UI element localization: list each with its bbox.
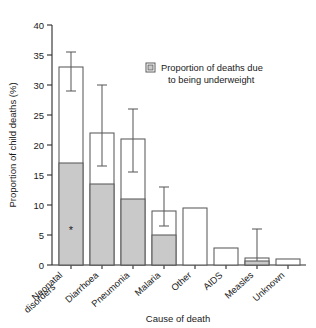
- x-axis-title: Cause of death: [146, 313, 210, 324]
- y-tick-label-25: 25: [33, 110, 44, 121]
- y-axis-tick-labels: 0 5 10 15 20 25 30 35 40: [33, 20, 44, 271]
- legend-label-line2: to being underweight: [168, 75, 255, 85]
- y-tick-label-15: 15: [33, 170, 44, 181]
- y-tick-label-35: 35: [33, 50, 44, 61]
- legend: Proportion of deaths due to being underw…: [146, 63, 263, 85]
- chart-container: 0 5 10 15 20 25 30 35 40 Proportion of c…: [0, 0, 316, 328]
- bar-group-measles[interactable]: [245, 229, 269, 265]
- asterisk-annotation-icon: *: [69, 224, 74, 236]
- category-label-aids: AIDS: [202, 270, 225, 292]
- y-tick-label-40: 40: [33, 20, 44, 31]
- y-tick-label-30: 30: [33, 80, 44, 91]
- y-axis-ticks: [47, 25, 52, 265]
- bar-underweight-pneumonia[interactable]: [121, 199, 145, 265]
- bar-underweight-diarrhoea[interactable]: [90, 184, 114, 265]
- bar-group-other[interactable]: [183, 208, 207, 265]
- y-tick-label-5: 5: [39, 230, 44, 241]
- bar-underweight-malaria[interactable]: [152, 235, 176, 265]
- y-tick-label-10: 10: [33, 200, 44, 211]
- bar-underweight-measles[interactable]: [245, 261, 269, 265]
- bar-group-unknown[interactable]: [276, 259, 300, 265]
- legend-label-line1: Proportion of deaths due: [161, 63, 263, 73]
- y-axis-title: Proportion of child deaths (%): [7, 82, 18, 207]
- y-tick-label-20: 20: [33, 140, 44, 151]
- x-axis-category-labels: Neonatal disorders Diarrhoea Pneumonia M…: [22, 270, 286, 316]
- y-tick-label-0: 0: [39, 260, 44, 271]
- bar-group-aids[interactable]: [214, 248, 238, 265]
- bar-total-unknown[interactable]: [276, 259, 300, 265]
- category-label-malaria: Malaria: [133, 270, 163, 298]
- bar-group-pneumonia[interactable]: [121, 109, 145, 265]
- bar-group-malaria[interactable]: [152, 187, 176, 265]
- legend-swatch-fill-icon: [148, 65, 153, 70]
- x-axis-ticks: [71, 265, 288, 269]
- bar-group-diarrhoea[interactable]: [90, 85, 114, 265]
- bar-chart-svg: 0 5 10 15 20 25 30 35 40 Proportion of c…: [0, 0, 316, 328]
- category-label-unknown: Unknown: [251, 270, 286, 303]
- bar-total-aids[interactable]: [214, 248, 238, 265]
- bar-underweight-neonatal-disorders[interactable]: [59, 163, 83, 265]
- category-label-other: Other: [169, 270, 193, 293]
- bar-total-other[interactable]: [183, 208, 207, 265]
- bar-group-neonatal-disorders[interactable]: *: [59, 52, 83, 265]
